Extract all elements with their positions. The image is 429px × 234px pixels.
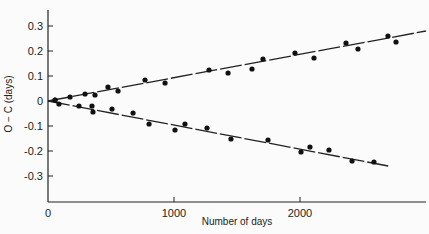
fit-lines [48,31,426,166]
data-point [343,40,348,45]
data-point [115,88,120,93]
data-point [76,103,81,108]
axes: 0.30.20.10-0.1-0.2-0.3010002000 [24,10,426,219]
data-point [307,144,312,149]
data-point [349,158,354,163]
data-point [249,66,254,71]
y-tick-label: 0.3 [28,20,43,32]
data-point [355,46,360,51]
data-point [56,101,61,106]
y-tick-label: -0.2 [24,145,43,157]
data-point [225,70,230,75]
y-tick-label: -0.3 [24,170,43,182]
data-point [260,56,265,61]
data-point [89,103,94,108]
fit-line-lower [48,101,388,166]
data-point [265,137,270,142]
data-point [92,92,97,97]
fit-line-upper [48,31,426,101]
y-tick-label: 0.2 [28,45,43,57]
x-tick-label: 0 [45,207,51,219]
data-point [371,159,376,164]
y-tick-label: -0.1 [24,120,43,132]
data-point [228,136,233,141]
data-point [130,110,135,115]
data-point [311,55,316,60]
x-tick-label: 2000 [288,207,312,219]
data-point [105,84,110,89]
x-axis-title: Number of days [202,216,273,227]
data-point [90,109,95,114]
data-point [385,33,390,38]
data-point [67,94,72,99]
data-point [52,97,57,102]
data-point [298,149,303,154]
data-point [204,125,209,130]
data-point [109,106,114,111]
y-tick-label: 0 [37,95,43,107]
data-point [172,127,177,132]
y-axis-title: O − C (days) [3,76,14,133]
data-points [52,33,398,164]
data-point [292,50,297,55]
data-point [206,67,211,72]
data-point [326,147,331,152]
x-tick-label: 1000 [162,207,186,219]
data-point [146,121,151,126]
data-point [82,91,87,96]
data-point [393,39,398,44]
data-point [142,77,147,82]
y-tick-label: 0.1 [28,70,43,82]
chart: 0.30.20.10-0.1-0.2-0.3010002000 Number o… [0,0,429,234]
data-point [162,80,167,85]
data-point [182,121,187,126]
